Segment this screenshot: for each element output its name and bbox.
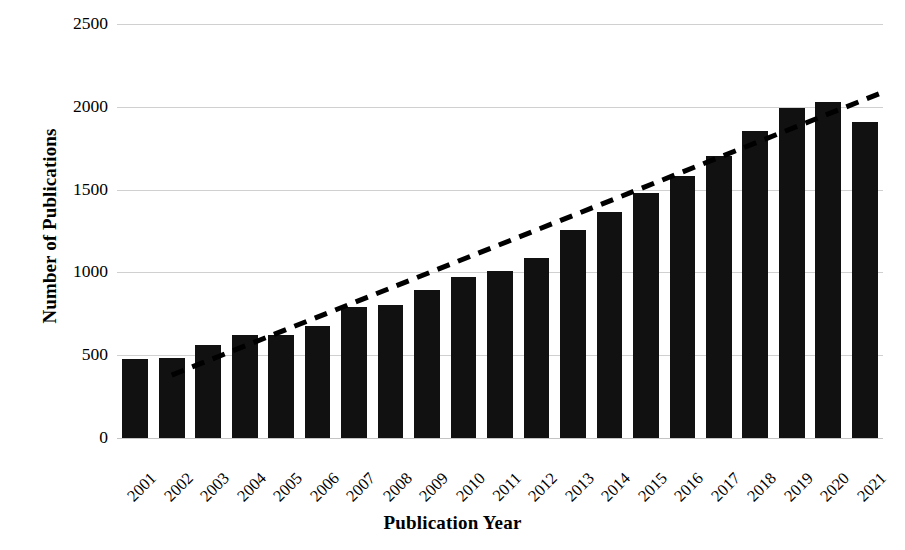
x-tick-label-2015: 2015 bbox=[636, 470, 671, 505]
bar-2006[interactable] bbox=[305, 326, 331, 438]
x-tick-label-2018: 2018 bbox=[745, 470, 780, 505]
x-tick-label-2008: 2008 bbox=[380, 470, 415, 505]
gridline-2500: 2500 bbox=[117, 24, 883, 25]
x-tick-label-2003: 2003 bbox=[198, 470, 233, 505]
x-tick-label-2007: 2007 bbox=[344, 470, 379, 505]
x-tick-label-2013: 2013 bbox=[563, 470, 598, 505]
y-axis-title: Number of Publications bbox=[39, 76, 61, 376]
x-tick-label-2001: 2001 bbox=[125, 470, 160, 505]
bar-2002[interactable] bbox=[159, 358, 185, 438]
bar-2013[interactable] bbox=[560, 230, 586, 438]
bar-2007[interactable] bbox=[341, 307, 367, 438]
bar-2020[interactable] bbox=[815, 102, 841, 438]
x-tick-label-2002: 2002 bbox=[161, 470, 196, 505]
bar-2004[interactable] bbox=[232, 335, 258, 438]
x-tick-label-2004: 2004 bbox=[234, 470, 269, 505]
bar-2018[interactable] bbox=[742, 131, 768, 438]
x-tick-label-2020: 2020 bbox=[818, 470, 853, 505]
x-tick-label-2021: 2021 bbox=[854, 470, 889, 505]
y-tick-label-500: 500 bbox=[82, 346, 108, 364]
x-tick-label-2017: 2017 bbox=[709, 470, 744, 505]
x-tick-label-2012: 2012 bbox=[526, 470, 561, 505]
bar-2011[interactable] bbox=[487, 271, 513, 438]
publications-bar-chart: Number of Publications 05001000150020002… bbox=[0, 0, 905, 550]
y-tick-label-1000: 1000 bbox=[73, 264, 108, 282]
bar-2015[interactable] bbox=[633, 193, 659, 438]
bar-2008[interactable] bbox=[378, 305, 404, 438]
x-axis-title: Publication Year bbox=[0, 512, 905, 534]
x-tick-label-2005: 2005 bbox=[271, 470, 306, 505]
x-tick-label-2011: 2011 bbox=[490, 470, 525, 505]
bar-2016[interactable] bbox=[670, 176, 696, 438]
y-tick-label-2500: 2500 bbox=[73, 15, 108, 33]
bar-2012[interactable] bbox=[524, 258, 550, 439]
gridline-2000: 2000 bbox=[117, 107, 883, 108]
bar-2003[interactable] bbox=[195, 345, 221, 438]
bar-2010[interactable] bbox=[451, 277, 477, 438]
y-tick-label-1500: 1500 bbox=[73, 181, 108, 199]
x-tick-label-2014: 2014 bbox=[599, 470, 634, 505]
bar-2021[interactable] bbox=[852, 122, 878, 438]
bar-2017[interactable] bbox=[706, 156, 732, 438]
y-tick-label-0: 0 bbox=[99, 429, 108, 447]
x-tick-label-2019: 2019 bbox=[781, 470, 816, 505]
x-tick-label-2016: 2016 bbox=[672, 470, 707, 505]
x-tick-label-2010: 2010 bbox=[453, 470, 488, 505]
bar-2001[interactable] bbox=[122, 359, 148, 438]
y-tick-label-2000: 2000 bbox=[73, 98, 108, 116]
bar-2009[interactable] bbox=[414, 290, 440, 438]
x-tick-label-2006: 2006 bbox=[307, 470, 342, 505]
bar-2014[interactable] bbox=[597, 212, 623, 438]
bar-2005[interactable] bbox=[268, 335, 294, 439]
gridline-0: 0 bbox=[117, 438, 883, 439]
bar-2019[interactable] bbox=[779, 108, 805, 438]
plot-area: 05001000150020002500 2001200220032004200… bbox=[117, 24, 883, 438]
x-tick-label-2009: 2009 bbox=[417, 470, 452, 505]
